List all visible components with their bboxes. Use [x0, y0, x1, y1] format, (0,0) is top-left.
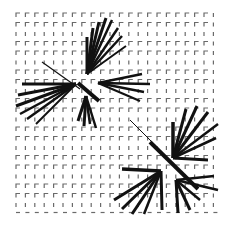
burst-ray — [173, 158, 208, 160]
background — [0, 0, 237, 236]
burst-ray — [122, 169, 161, 171]
texture-canvas — [0, 0, 237, 236]
burst-ray — [161, 171, 162, 210]
